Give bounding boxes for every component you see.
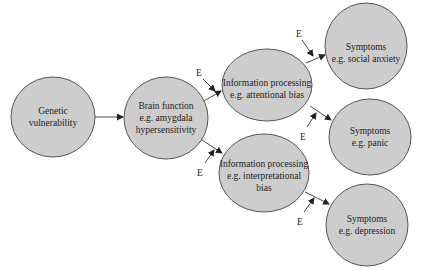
node-info-attentional: Information processing e.g. attentional …: [222, 49, 312, 121]
node-label-line: e.g. amygdala: [139, 113, 193, 123]
env-arrow-5: [304, 198, 314, 212]
node-symptoms-depression: Symptoms e.g. depression: [326, 184, 408, 266]
env-label-3: E: [296, 29, 302, 39]
node-label-line: Symptoms: [347, 214, 388, 224]
node-symptoms-panic: Symptoms e.g. panic: [329, 99, 411, 175]
env-label-5: E: [297, 217, 303, 227]
env-arrow-3: [302, 40, 313, 56]
env-arrow-2: [205, 150, 214, 163]
node-label-line: Symptoms: [346, 42, 387, 52]
node-label-line: Genetic: [38, 106, 68, 116]
node-label-line: vulnerability: [29, 118, 78, 128]
node-label-line: Symptoms: [350, 126, 391, 136]
node-info-interpretational: Information processing e.g. interpretati…: [219, 134, 309, 212]
node-label-line: e.g. attentional bias: [230, 90, 304, 100]
edge-brain-info-interpretational: [202, 140, 222, 153]
node-label-line: e.g. depression: [339, 226, 396, 236]
edge-info-attentional-symptoms-social: [306, 55, 325, 63]
env-arrow-1: [203, 79, 215, 91]
node-genetic-vulnerability: Genetic vulnerability: [11, 77, 95, 157]
edge-brain-info-attentional: [204, 91, 221, 101]
node-label-line: Information processing: [220, 159, 309, 169]
node-label-line: e.g. social anxiety: [332, 54, 401, 64]
node-label-line: Brain function: [138, 101, 193, 111]
node-label-line: e.g. panic: [352, 138, 389, 148]
edge-info-interpretational-symptoms-depression: [305, 192, 329, 204]
node-label-line: hypersensitivity: [136, 125, 197, 135]
node-symptoms-social-anxiety: Symptoms e.g. social anxiety: [325, 3, 407, 89]
env-label-4: E: [300, 132, 306, 142]
node-label-line: Information processing: [223, 78, 312, 88]
env-arrow-4: [307, 113, 316, 127]
node-label-line: e.g. interpretational: [227, 171, 301, 181]
node-brain-function: Brain function e.g. amygdala hypersensit…: [124, 77, 208, 159]
node-label-line: bias: [256, 183, 272, 193]
diagram-canvas: E E E E E Genetic vulnerability Brain fu…: [0, 0, 421, 270]
env-label-2: E: [197, 168, 203, 178]
env-label-1: E: [196, 68, 202, 78]
